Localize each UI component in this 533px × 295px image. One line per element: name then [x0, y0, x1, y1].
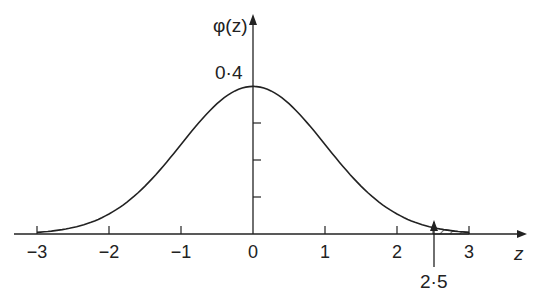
normal-distribution-chart: −3−2−10123 φ(z) 0·4 z 2·5	[0, 0, 533, 295]
y-value-label: 0·4	[215, 62, 243, 83]
svg-text:−1: −1	[171, 242, 192, 262]
x-axis-label: z	[513, 243, 524, 264]
y-axis-arrow-icon	[249, 14, 257, 25]
svg-text:0: 0	[248, 242, 258, 262]
chart-svg: −3−2−10123 φ(z) 0·4 z 2·5	[0, 0, 533, 295]
svg-text:−2: −2	[99, 242, 120, 262]
y-axis-label: φ(z)	[213, 15, 247, 36]
svg-text:−3: −3	[27, 242, 48, 262]
x-ticks: −3−2−10123	[27, 226, 474, 262]
svg-text:3: 3	[464, 242, 474, 262]
svg-text:2: 2	[392, 242, 402, 262]
up-arrow-icon	[430, 220, 438, 231]
x-axis-arrow-icon	[517, 230, 527, 238]
svg-text:1: 1	[320, 242, 330, 262]
annotation-label: 2·5	[420, 271, 447, 292]
y-ticks	[253, 123, 261, 197]
